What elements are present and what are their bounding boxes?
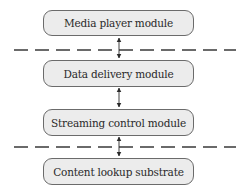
media-player-module-box: Media player module xyxy=(43,10,194,36)
module-label: Data delivery module xyxy=(64,68,174,80)
module-label: Streaming control module xyxy=(51,117,186,129)
layered-architecture-diagram: Media player module Data delivery module… xyxy=(0,0,244,196)
module-label: Content lookup substrate xyxy=(53,166,183,178)
content-lookup-substrate-box: Content lookup substrate xyxy=(43,158,194,185)
module-label: Media player module xyxy=(64,17,173,29)
data-delivery-module-box: Data delivery module xyxy=(43,60,194,87)
streaming-control-module-box: Streaming control module xyxy=(43,109,194,136)
